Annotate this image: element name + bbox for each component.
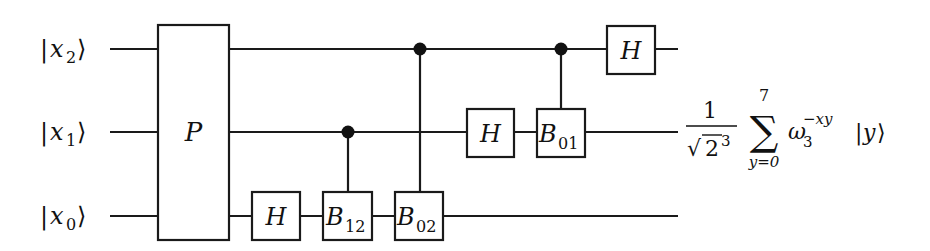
gate-b02: B 02	[395, 192, 443, 240]
ket-close: ⟩	[77, 202, 86, 230]
ket-symbol: y	[862, 120, 876, 145]
gate-label: H	[265, 203, 288, 231]
gate-h-x2: H	[607, 26, 655, 74]
sqrt-base: 2	[705, 136, 719, 161]
gate-h-x1: H	[467, 109, 514, 157]
omega-subscript: 3	[803, 133, 813, 151]
sum-lower-limit: y=0	[748, 153, 780, 171]
control-dot-b02	[414, 43, 427, 56]
ket-open: |	[40, 202, 48, 231]
ket-symbol: x	[50, 202, 64, 230]
sqrt-exponent: 3	[721, 132, 731, 150]
gate-b12: B 12	[323, 192, 372, 240]
ket-subscript: 1	[66, 131, 76, 150]
sqrt-symbol: √	[687, 136, 702, 161]
gate-label: B	[538, 120, 557, 148]
ket-close: ⟩	[877, 120, 886, 145]
sum-symbol: ∑	[750, 108, 779, 154]
omega-exponent: −xy	[803, 110, 833, 128]
ket-open: |	[855, 120, 862, 146]
gate-subscript: 01	[558, 134, 578, 153]
gate-p: P	[158, 25, 229, 240]
control-dot-b01	[555, 43, 568, 56]
ket-symbol: x	[50, 118, 64, 146]
gate-label: B	[325, 203, 344, 231]
gate-label: P	[184, 117, 203, 147]
ket-symbol: x	[50, 35, 64, 63]
ket-close: ⟩	[77, 35, 86, 63]
gate-h-x0: H	[252, 192, 300, 240]
ket-subscript: 0	[66, 215, 76, 234]
fraction-numerator: 1	[703, 98, 717, 123]
gate-label: B	[396, 203, 415, 231]
quantum-circuit: | x 2 ⟩ | x 1 ⟩ | x 0 ⟩ P H B 12 B	[0, 0, 930, 251]
gate-subscript: 02	[416, 217, 436, 236]
input-label-x1: | x 1 ⟩	[40, 118, 86, 150]
ket-close: ⟩	[77, 118, 86, 146]
ket-subscript: 2	[66, 48, 76, 67]
output-formula: 1 √ 2 3 7 ∑ y=0 ω 3 −xy | y ⟩	[686, 86, 886, 171]
control-dot-b12	[342, 126, 355, 139]
input-label-x0: | x 0 ⟩	[40, 202, 86, 234]
sum-upper-limit: 7	[759, 86, 769, 105]
input-label-x2: | x 2 ⟩	[40, 35, 86, 67]
ket-open: |	[40, 35, 48, 64]
gate-label: H	[479, 120, 502, 148]
gate-label: H	[620, 37, 643, 65]
gate-subscript: 12	[345, 217, 365, 236]
ket-open: |	[40, 118, 48, 147]
gate-b01: B 01	[537, 109, 585, 157]
